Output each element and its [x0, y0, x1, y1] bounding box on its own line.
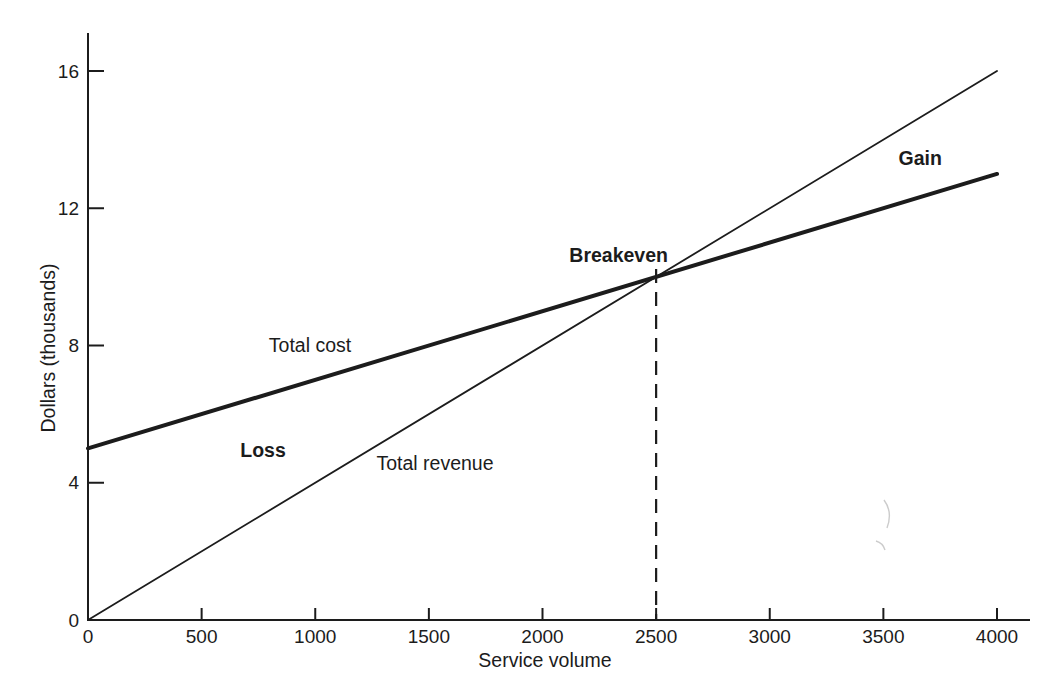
- x-tick-label-2000: 2000: [521, 626, 563, 647]
- breakeven-chart-figure: 050010001500200025003000350040000481216T…: [0, 0, 1063, 700]
- y-tick-label-4: 4: [68, 472, 79, 493]
- annotation-loss: Loss: [240, 439, 286, 461]
- x-tick-label-3500: 3500: [862, 626, 904, 647]
- y-tick-label-16: 16: [58, 61, 79, 82]
- annotation-gain: Gain: [899, 147, 942, 169]
- x-tick-label-1000: 1000: [294, 626, 336, 647]
- series-line-total-revenue: [88, 71, 997, 620]
- x-tick-label-2500: 2500: [635, 626, 677, 647]
- breakeven-chart: 050010001500200025003000350040000481216T…: [0, 0, 1063, 700]
- annotation-total-cost: Total cost: [269, 334, 352, 356]
- x-tick-label-1500: 1500: [408, 626, 450, 647]
- y-tick-label-12: 12: [58, 198, 79, 219]
- y-tick-label-0: 0: [68, 610, 79, 631]
- x-axis-title: Service volume: [478, 649, 611, 671]
- scan-artifact: [876, 500, 889, 550]
- y-axis-title: Dollars (thousands): [37, 263, 59, 432]
- x-tick-label-500: 500: [186, 626, 218, 647]
- x-tick-label-0: 0: [83, 626, 94, 647]
- y-tick-label-8: 8: [68, 335, 79, 356]
- x-tick-label-4000: 4000: [976, 626, 1018, 647]
- annotation-total-revenue: Total revenue: [376, 452, 493, 474]
- annotation-breakeven: Breakeven: [569, 244, 668, 266]
- series-line-total-cost: [88, 174, 997, 449]
- x-tick-label-3000: 3000: [749, 626, 791, 647]
